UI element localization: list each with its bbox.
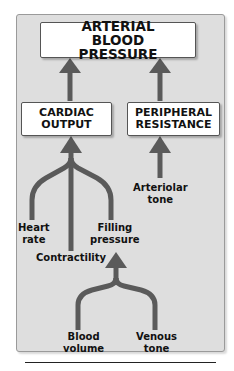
contractility-label: Contractility [36, 252, 106, 264]
heart-rate-label: Heartrate [18, 222, 50, 245]
peripheral-resistance-box: PERIPHERAL RESISTANCE [127, 102, 220, 136]
arrowhead-icon [149, 136, 171, 153]
blood-volume-label: Bloodvolume [63, 331, 104, 354]
divider-line [25, 362, 216, 363]
arrow-venous-tone [116, 278, 155, 330]
arrowhead-icon [60, 136, 82, 153]
box-label: ARTERIAL BLOOD PRESSURE [58, 19, 178, 62]
arrow-blood-volume [78, 278, 116, 330]
arterial-blood-pressure-box: ARTERIAL BLOOD PRESSURE [40, 22, 196, 58]
arrow-heart-rate [32, 158, 71, 220]
filling-pressure-label: Fillingpressure [90, 222, 140, 245]
cardiac-output-box: CARDIAC OUTPUT [21, 102, 112, 136]
arrowhead-icon [105, 252, 127, 268]
venous-tone-label: Venoustone [136, 331, 177, 354]
arteriolar-tone-label: Arteriolartone [133, 182, 188, 205]
box-label: PERIPHERAL RESISTANCE [134, 107, 214, 130]
box-label: CARDIAC OUTPUT [37, 107, 97, 130]
arrow-filling-pressure [71, 158, 111, 220]
